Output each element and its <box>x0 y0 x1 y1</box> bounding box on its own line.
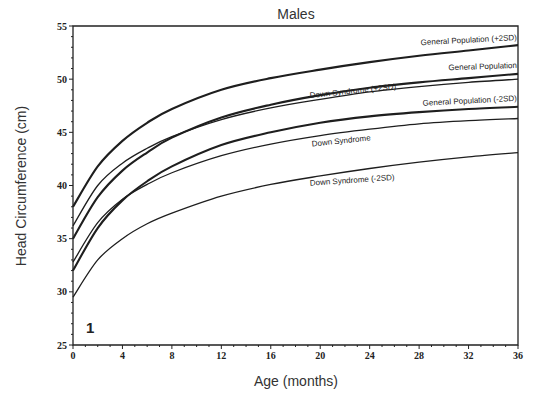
curve-label-general-population-2sd: General Population (+2SD) <box>420 33 517 47</box>
curve-label-general-population: General Population <box>448 61 517 72</box>
x-tick-label: 36 <box>513 350 523 361</box>
curves <box>73 45 518 297</box>
x-tick-label: 8 <box>169 350 174 361</box>
curve-down-syndrome <box>73 119 518 263</box>
curve-label-general-population-2sd: General Population (-2SD) <box>422 94 517 108</box>
curve-down-syndrome-2sd <box>73 153 518 298</box>
y-tick-label: 35 <box>57 233 67 244</box>
x-tick-label: 24 <box>365 350 375 361</box>
y-tick-label: 25 <box>57 340 67 351</box>
x-tick-label: 20 <box>315 350 325 361</box>
x-tick-label: 0 <box>71 350 76 361</box>
y-axis-title: Head Circumference (cm) <box>13 106 29 266</box>
x-tick-label: 4 <box>120 350 125 361</box>
y-tick-label: 50 <box>57 74 67 85</box>
y-tick-label: 30 <box>57 286 67 297</box>
y-tick-label: 40 <box>57 180 67 191</box>
x-tick-label: 28 <box>414 350 424 361</box>
x-tick-label: 16 <box>266 350 276 361</box>
y-tick-label: 55 <box>57 21 67 32</box>
x-axis-title: Age (months) <box>254 373 338 389</box>
x-tick-label: 32 <box>464 350 474 361</box>
chart-title: Males <box>277 6 314 22</box>
panel-label: 1 <box>86 319 94 336</box>
y-tick-label: 45 <box>57 127 67 138</box>
curve-label-down-syndrome-2sd: Down Syndrome (+2SD) <box>309 82 397 100</box>
x-tick-label: 12 <box>216 350 226 361</box>
head-circumference-chart: Males 2530354045505504812162024283236 Ge… <box>0 0 533 400</box>
